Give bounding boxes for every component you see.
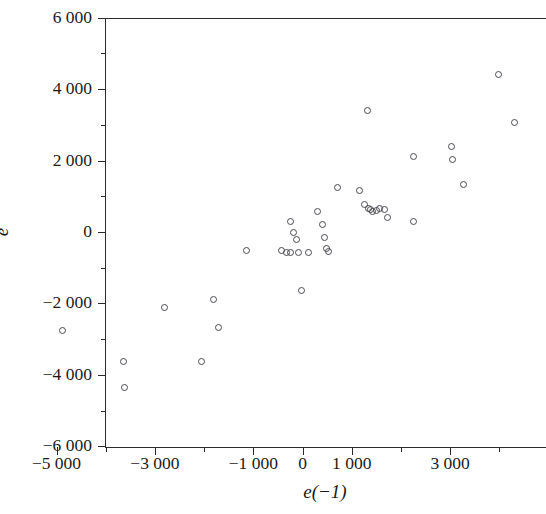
y-tick-mark xyxy=(98,18,106,19)
data-point xyxy=(121,384,128,391)
y-minor-tick-mark xyxy=(101,196,106,197)
y-minor-tick-mark xyxy=(101,53,106,54)
y-minor-tick-mark xyxy=(101,411,106,412)
x-minor-tick-mark xyxy=(204,447,205,452)
y-tick-mark xyxy=(98,89,106,90)
data-point xyxy=(198,358,205,365)
y-tick-label: −2 000 xyxy=(6,294,92,312)
scatter-plot-figure: e e(−1) 6 0004 0002 0000−2 000−4 000−6 0… xyxy=(0,0,546,514)
y-tick-label: 0 xyxy=(6,223,92,241)
y-minor-tick-mark xyxy=(101,268,106,269)
y-tick-label: 6 000 xyxy=(6,9,92,27)
y-minor-tick-mark xyxy=(101,125,106,126)
y-tick-mark xyxy=(98,375,106,376)
data-point xyxy=(381,206,388,213)
axis-bottom-spine xyxy=(105,447,546,448)
data-point xyxy=(334,184,341,191)
x-tick-label: 3 000 xyxy=(430,455,469,473)
x-axis-title: e(−1) xyxy=(303,481,346,503)
data-point xyxy=(364,107,371,114)
x-tick-label: −1 000 xyxy=(229,455,278,473)
x-tick-label: 1 000 xyxy=(332,455,371,473)
x-tick-label: 0 xyxy=(298,455,307,473)
plot-area xyxy=(105,18,546,447)
x-minor-tick-mark xyxy=(401,447,402,452)
data-point xyxy=(448,143,455,150)
x-minor-tick-mark xyxy=(499,447,500,452)
y-minor-tick-mark xyxy=(101,339,106,340)
y-tick-mark xyxy=(98,161,106,162)
data-point xyxy=(161,304,168,311)
x-tick-label: −3 000 xyxy=(130,455,179,473)
data-point xyxy=(449,156,456,163)
data-point xyxy=(305,249,312,256)
data-point xyxy=(295,249,302,256)
data-point xyxy=(511,119,518,126)
data-point xyxy=(325,248,332,255)
y-tick-mark xyxy=(98,303,106,304)
y-tick-label: −4 000 xyxy=(6,366,92,384)
x-tick-label: −5 000 xyxy=(32,455,81,473)
y-tick-label: 4 000 xyxy=(6,80,92,98)
data-point xyxy=(384,214,391,221)
x-minor-tick-mark xyxy=(106,447,107,452)
data-point xyxy=(287,249,294,256)
data-point xyxy=(321,234,328,241)
data-point xyxy=(319,221,326,228)
data-point xyxy=(59,327,66,334)
data-point xyxy=(293,236,300,243)
y-tick-mark xyxy=(98,232,106,233)
data-point xyxy=(460,181,467,188)
y-tick-label: 2 000 xyxy=(6,152,92,170)
